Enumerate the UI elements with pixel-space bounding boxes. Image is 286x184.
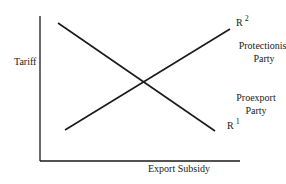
- protectionist-party-label: Protectionist Party: [237, 40, 286, 64]
- r1-label-superscript: 1: [236, 117, 240, 126]
- r2-label-superscript: 2: [245, 14, 249, 23]
- protectionist-label-line2: Party: [237, 53, 286, 64]
- proexport-party-label: Proexport Party: [234, 92, 278, 116]
- r2-label: R2: [236, 17, 249, 29]
- r1-label: R1: [227, 120, 240, 132]
- protectionist-label-line1: Protectionist: [237, 40, 286, 51]
- y-axis-label: Tariff: [14, 56, 36, 67]
- proexport-label-line2: Party: [234, 105, 278, 116]
- r1-curve-line: [58, 23, 215, 131]
- r2-label-base: R: [236, 17, 243, 28]
- r1-label-base: R: [227, 120, 234, 131]
- proexport-label-line1: Proexport: [234, 92, 278, 103]
- x-axis-label: Export Subsidy: [148, 163, 210, 174]
